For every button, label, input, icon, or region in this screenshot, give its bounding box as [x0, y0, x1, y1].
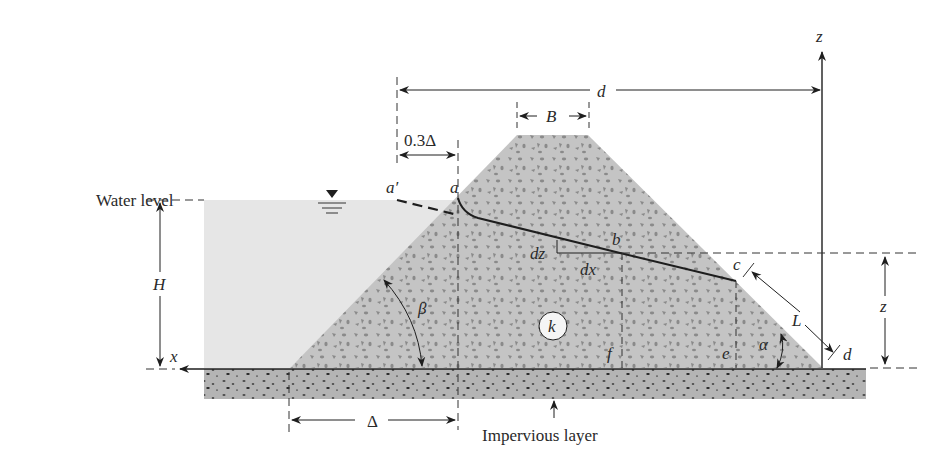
- B-label: B: [546, 107, 557, 126]
- offset-label: 0.3Δ: [404, 131, 436, 150]
- water-level-label: Water level: [96, 191, 174, 210]
- b-label: b: [612, 230, 621, 249]
- impervious-layer: [204, 369, 866, 399]
- a-label: a: [450, 178, 459, 197]
- z-axis-label: z: [815, 27, 823, 46]
- dx-label: dx: [580, 260, 597, 279]
- c-label: c: [733, 255, 741, 274]
- impervious-layer-label: Impervious layer: [482, 426, 598, 445]
- delta-label: Δ: [367, 412, 378, 431]
- d-point-label: d: [843, 345, 852, 364]
- e-label: e: [722, 344, 730, 363]
- seepage-through-earth-dam-diagram: H 0.3Δ d B z z L α β Δ k Water: [0, 0, 928, 469]
- z-dim-label: z: [879, 297, 887, 316]
- x-axis-label: x: [169, 347, 178, 366]
- d-top-label: d: [597, 82, 606, 101]
- a-prime-label: a′: [386, 178, 399, 197]
- k-label: k: [548, 317, 556, 336]
- beta-label: β: [417, 299, 427, 318]
- H-label: H: [152, 275, 167, 294]
- dz-label: dz: [530, 244, 546, 263]
- alpha-label: α: [759, 335, 769, 354]
- L-label: L: [791, 311, 801, 330]
